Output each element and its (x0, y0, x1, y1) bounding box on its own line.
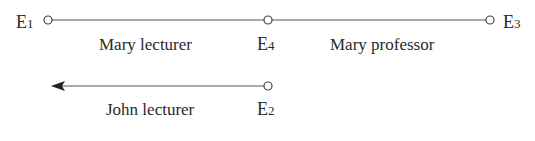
node-e2-circle (264, 82, 272, 90)
node-e3-circle (486, 16, 494, 24)
edge-label-mary-professor: Mary professor (330, 36, 434, 53)
node-e3-label: E3 (503, 13, 521, 31)
timeline-diagram (0, 0, 535, 141)
node-e4-circle (264, 16, 272, 24)
node-e1-label: E1 (16, 13, 34, 31)
node-e4-label: E4 (257, 35, 275, 53)
node-e2-label: E2 (257, 100, 275, 118)
edge-label-john-lecturer: John lecturer (106, 101, 194, 118)
node-e1-circle (44, 16, 52, 24)
edge-label-mary-lecturer: Mary lecturer (99, 36, 192, 53)
